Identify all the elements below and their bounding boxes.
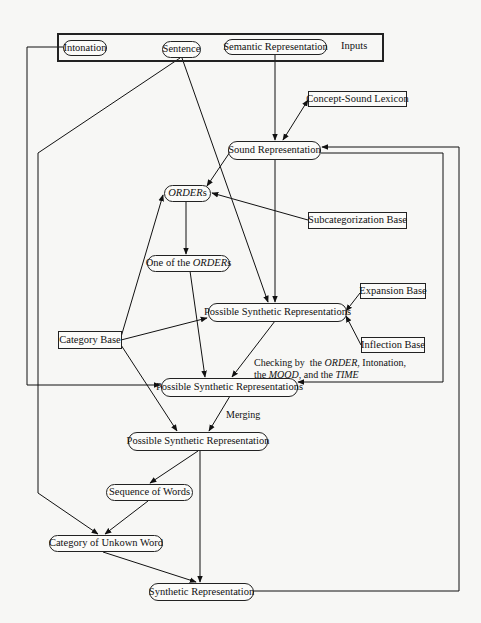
node-subcategorization-base: Subcategorization Base <box>308 212 407 229</box>
node-possible-synthetic-representation: Possible Synthetic Representation <box>128 432 268 451</box>
node-orders: ORDERs <box>164 185 211 202</box>
node-intonation: Intonation <box>63 40 107 56</box>
one-of-orders-italic: ORDER <box>193 258 227 269</box>
edge-catbase-to-psr1 <box>121 318 207 340</box>
edge-psr-to-sequence <box>150 451 198 483</box>
edge-inflection-to-psr1 <box>346 316 361 345</box>
edge-oneof-to-psr2 <box>190 271 205 377</box>
node-one-of-orders: One of the ORDERs <box>147 255 230 272</box>
node-semantic-representation: Semantic Representation <box>224 39 327 55</box>
node-sequence-of-words: Sequence of Words <box>106 484 193 501</box>
node-concept-sound-lexicon: Concept-Sound Lexicon <box>308 91 407 107</box>
edge-unknown-to-synthetic <box>103 552 196 582</box>
node-category-base: Category Base <box>58 331 122 349</box>
node-possible-synthetic-representations-2: Possible Synthetic Representations <box>161 378 298 397</box>
orders-italic: ORDER <box>168 188 202 199</box>
one-of-orders-prefix: One of the <box>146 258 193 269</box>
node-possible-synthetic-representations-1: Possible Synthetic Representations <box>208 303 347 322</box>
node-expansion-base: Expansion Base <box>360 283 426 299</box>
node-synthetic-representation: Synthetic Representation <box>149 583 254 601</box>
orders-suffix: s <box>203 188 207 199</box>
edge-sequence-to-unknown <box>105 501 148 534</box>
edge-subcat-to-orders <box>212 193 308 220</box>
node-sentence: Sentence <box>162 41 201 58</box>
inputs-label: Inputs <box>341 40 367 52</box>
node-inflection-base: Inflection Base <box>361 337 425 353</box>
edge-sound-to-orders <box>207 152 230 186</box>
edge-lexicon-sound <box>283 100 308 140</box>
edge-label-merging: Merging <box>226 409 260 421</box>
one-of-orders-suffix: s <box>227 258 231 269</box>
node-category-of-unknown-word: Category of Unkown Word <box>49 535 163 552</box>
edge-sentence-to-unknown <box>38 58 180 534</box>
node-sound-representation: Sound Representation <box>228 141 321 160</box>
